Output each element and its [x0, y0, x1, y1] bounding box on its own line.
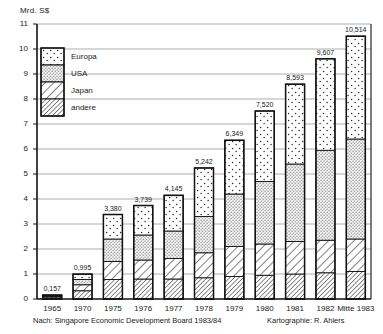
y-tick-label: 5	[12, 170, 28, 178]
y-tick-label: 2	[12, 245, 28, 253]
bar-segment-europa	[103, 215, 122, 240]
bar-segment-usa	[73, 280, 92, 285]
x-tick-label: Mitte 1983	[330, 305, 382, 313]
bar-total-label: 3,739	[123, 196, 163, 203]
legend-label-andere: andere	[71, 104, 96, 112]
bar-segment-usa	[316, 150, 335, 240]
bar-segment-andere	[103, 280, 122, 300]
bar-segment-europa	[255, 111, 274, 182]
bar-segment-usa	[286, 164, 305, 242]
bar-segment-japan	[346, 239, 365, 272]
stacked-bar-chart: Mrd. S$	[0, 0, 383, 334]
bar-segment-europa	[195, 168, 214, 217]
bar-segment-japan	[255, 244, 274, 275]
bar-segment-andere	[195, 278, 214, 299]
legend-label-japan: Japan	[71, 87, 93, 95]
y-tick-label: 6	[12, 145, 28, 153]
legend-label-europa: Europa	[71, 53, 97, 61]
bar-segment-japan	[73, 285, 92, 291]
y-tick-label: 1	[12, 270, 28, 278]
bar-segment-europa	[164, 195, 183, 231]
bar-segment-usa	[255, 182, 274, 245]
bar-total-label: 8,593	[275, 74, 315, 81]
y-tick-label: 0	[12, 295, 28, 303]
bar-segment-japan	[286, 242, 305, 275]
bar-total-label: 0,995	[63, 264, 103, 271]
y-tick-label: 3	[12, 220, 28, 228]
bar-total-label: 6,349	[214, 130, 254, 137]
bar-segment-usa	[103, 239, 122, 262]
y-tick-label: 10	[12, 45, 28, 53]
bar-total-label: 3,380	[93, 205, 133, 212]
bar-segment-usa	[164, 231, 183, 259]
bar-segment-andere	[134, 279, 153, 299]
legend-swatches-group	[41, 48, 64, 116]
legend-label-usa: USA	[71, 70, 87, 78]
bar-segment-japan	[164, 259, 183, 280]
bar-segment-japan	[134, 260, 153, 279]
bar-segment-andere	[225, 277, 244, 300]
bar-segment-europa	[346, 36, 365, 139]
bar-segment-usa	[225, 194, 244, 247]
bar-total-label: 5,242	[184, 158, 224, 165]
bar-segment-andere	[346, 272, 365, 300]
bar-segment-japan	[103, 262, 122, 280]
bar-segment-europa	[225, 140, 244, 194]
y-tick-label: 9	[12, 70, 28, 78]
bar-segment-usa	[134, 235, 153, 260]
bar-segment-europa	[286, 84, 305, 164]
bar-segment-andere	[286, 274, 305, 299]
bar-segment-andere	[73, 291, 92, 299]
bar-segment-europa	[134, 206, 153, 236]
legend-swatch-europa	[41, 48, 64, 65]
bar-segment-andere	[164, 279, 183, 299]
y-tick-label: 7	[12, 120, 28, 128]
bar-segment-andere	[316, 273, 335, 299]
bar-segment-europa	[73, 274, 92, 279]
bars-group	[43, 36, 366, 299]
y-tick-label: 4	[12, 195, 28, 203]
bar-total-label: 0,157	[32, 285, 72, 292]
bar-segment-japan	[316, 240, 335, 273]
bar-segment-europa	[316, 59, 335, 151]
bar-segment-andere	[255, 275, 274, 299]
bar-total-label: 4,145	[154, 185, 194, 192]
y-tick-label: 11	[12, 20, 28, 28]
bar-segment-usa	[195, 217, 214, 253]
legend-swatch-usa	[41, 65, 64, 82]
bar-segment-usa	[346, 139, 365, 239]
y-axis-title: Mrd. S$	[20, 6, 49, 15]
bar-segment-japan	[195, 253, 214, 278]
cartography-note: Kartographie: R. Ahlers	[267, 317, 345, 325]
legend-swatch-japan	[41, 82, 64, 99]
source-note: Nach: Singapore Economic Development Boa…	[33, 317, 221, 325]
bar-segment-japan	[225, 247, 244, 277]
bar-total-label: 10,514	[336, 26, 376, 33]
legend-swatch-andere	[41, 99, 64, 116]
y-tick-label: 8	[12, 95, 28, 103]
bar-total-label: 9,607	[305, 49, 345, 56]
bar-total-label: 7,520	[245, 101, 285, 108]
